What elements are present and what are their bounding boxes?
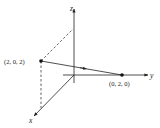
vector-arrowhead <box>80 68 85 69</box>
point-2-0-2 <box>39 59 43 63</box>
dashed-projection-to-z <box>41 29 73 61</box>
axis-label-y: y <box>149 71 154 80</box>
x-axis <box>34 75 74 116</box>
point-label-p: (2, 0, 2) <box>4 58 25 66</box>
axis-label-z: z <box>69 4 73 13</box>
point-label-q: (0, 2, 0) <box>109 80 130 88</box>
axes-diagram: (2, 0, 2) (0, 2, 0) z y x <box>0 0 160 128</box>
axis-label-x: x <box>28 116 33 125</box>
point-0-2-0 <box>120 73 124 77</box>
diagram-canvas: (2, 0, 2) (0, 2, 0) z y x <box>0 0 160 128</box>
